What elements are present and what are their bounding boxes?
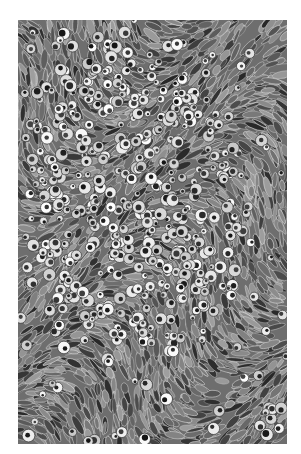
tissue-texture <box>18 20 287 444</box>
micrograph-image <box>18 20 287 444</box>
